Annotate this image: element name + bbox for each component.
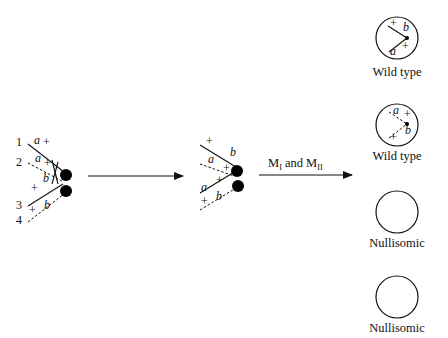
allele-label: a [35,151,41,165]
gamete-circle [376,191,418,233]
allele-label: a [201,180,207,194]
product-2: a + b + Wild type [372,103,422,163]
meiosis-diagram: 1 2 3 4 a + a + b + + b + b a + + a + b … [0,0,448,338]
allele-label: + [390,130,397,144]
allele-label: b [230,145,236,159]
allele-label: + [216,173,223,187]
product-3: Nullisomic [369,191,425,250]
chromatid-number-4: 4 [16,213,22,227]
allele-label: b [405,123,411,137]
allele-label: b [43,171,49,185]
centromere-upper [60,169,72,181]
centromere-upper [231,165,243,177]
stage1-chromosome-pair: 1 2 3 4 a + a + b + + b [16,133,72,227]
gamete-circle [376,17,418,59]
product-caption: Nullisomic [369,321,425,335]
allele-label: + [31,181,38,195]
allele-label: a [390,44,396,58]
allele-label: + [43,135,50,149]
allele-label: a [393,103,399,117]
allele-label: + [29,203,36,217]
product-1: + b a + Wild type [372,16,422,79]
centromere-lower [232,180,244,192]
allele-label: + [201,194,208,208]
allele-label: a [34,133,40,147]
product-caption: Nullisomic [369,236,425,250]
allele-label: a [208,152,214,166]
product-caption: Wild type [372,149,422,163]
stage2-chromosome-pair: + b a + + a + b [200,134,244,210]
allele-label: + [223,161,230,175]
allele-label: b [216,189,222,203]
allele-label: + [206,134,213,148]
allele-label: + [402,39,409,53]
chromatid-number-3: 3 [16,198,22,212]
centromere-lower [60,185,72,197]
allele-label: + [404,107,411,121]
meiosis-label: MI and MII [268,156,323,172]
chromatid-number-1: 1 [16,135,22,149]
allele-label: b [44,198,50,212]
chromatid-number-2: 2 [16,155,22,169]
product-4: Nullisomic [369,276,425,335]
allele-label: b [403,20,409,34]
gamete-circle [376,276,418,318]
allele-label: + [44,156,51,170]
allele-label: + [390,16,397,30]
product-caption: Wild type [372,65,422,79]
